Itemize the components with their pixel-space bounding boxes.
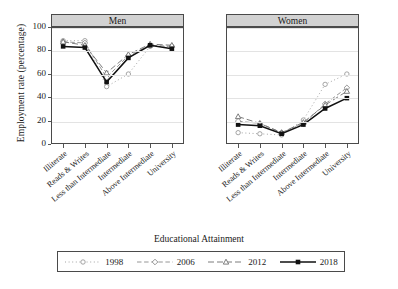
y-tick-label: 60 bbox=[24, 69, 46, 78]
data-point-open-circle bbox=[258, 132, 262, 136]
data-point-open-diamond bbox=[152, 259, 158, 265]
y-tick-label: 20 bbox=[24, 116, 46, 125]
data-point-filled-square bbox=[61, 44, 66, 49]
data-point-open-circle bbox=[323, 82, 327, 86]
data-point-filled-square bbox=[104, 80, 109, 85]
x-tick-mark bbox=[282, 144, 283, 148]
x-tick-mark bbox=[172, 144, 173, 148]
data-point-filled-square bbox=[148, 43, 153, 48]
data-point-filled-square bbox=[279, 132, 284, 137]
x-tick-mark bbox=[260, 144, 261, 148]
legend-label: 2006 bbox=[177, 257, 195, 267]
gridline bbox=[227, 51, 358, 52]
y-tick-label: 80 bbox=[24, 45, 46, 54]
panel-strip-women: Women bbox=[226, 14, 359, 27]
gridline bbox=[52, 28, 183, 29]
gridline bbox=[227, 122, 358, 123]
gridline bbox=[227, 75, 358, 76]
legend-label: 2012 bbox=[248, 257, 266, 267]
y-tick-label: 100 bbox=[24, 22, 46, 31]
panel-women: Women bbox=[226, 14, 359, 144]
gridline bbox=[52, 51, 183, 52]
gridline bbox=[227, 98, 358, 99]
plot-area-women bbox=[226, 27, 359, 144]
y-tick-mark bbox=[48, 144, 51, 145]
data-point-filled-square bbox=[323, 106, 328, 111]
gridline bbox=[52, 122, 183, 123]
x-tick-mark bbox=[238, 144, 239, 148]
plot-area-men bbox=[51, 27, 184, 144]
data-point-filled-square bbox=[236, 122, 241, 127]
data-point-filled-square bbox=[170, 46, 175, 51]
legend-key-2018 bbox=[279, 256, 317, 268]
panel-strip-label: Women bbox=[278, 16, 307, 26]
data-point-filled-square bbox=[83, 45, 88, 50]
x-axis-title: Educational Attainment bbox=[0, 234, 398, 244]
panel-strip-men: Men bbox=[51, 14, 184, 27]
x-tick-mark bbox=[347, 144, 348, 148]
legend-label: 1998 bbox=[105, 257, 123, 267]
legend-key-2006 bbox=[136, 256, 174, 268]
data-point-filled-square bbox=[258, 123, 263, 128]
plot-lines-men bbox=[52, 28, 183, 143]
plot-lines-women bbox=[227, 28, 358, 143]
legend-key-1998 bbox=[64, 256, 102, 268]
x-tick-mark bbox=[325, 144, 326, 148]
gridline bbox=[52, 98, 183, 99]
legend-label: 2018 bbox=[320, 257, 338, 267]
legend-item-1998[interactable]: 1998 bbox=[64, 256, 123, 268]
data-point-open-circle bbox=[236, 130, 240, 134]
x-tick-mark bbox=[107, 144, 108, 148]
y-tick-label: 40 bbox=[24, 92, 46, 101]
x-tick-mark bbox=[128, 144, 129, 148]
gridline bbox=[227, 28, 358, 29]
x-tick-mark bbox=[85, 144, 86, 148]
legend-key-2012 bbox=[207, 256, 245, 268]
data-point-open-circle bbox=[81, 259, 85, 263]
data-point-filled-square bbox=[295, 259, 300, 264]
series-line-2018 bbox=[238, 98, 347, 134]
data-point-filled-square bbox=[301, 122, 306, 127]
y-tick-label: 0 bbox=[24, 139, 46, 148]
gridline bbox=[52, 75, 183, 76]
x-tick-mark bbox=[303, 144, 304, 148]
panel-strip-label: Men bbox=[109, 16, 126, 26]
data-point-open-triangle bbox=[235, 114, 240, 119]
x-tick-mark bbox=[63, 144, 64, 148]
legend-item-2012[interactable]: 2012 bbox=[207, 256, 266, 268]
legend: 1998200620122018 bbox=[57, 251, 345, 272]
data-point-open-circle bbox=[104, 84, 108, 88]
panel-men: Men bbox=[51, 14, 184, 144]
data-point-filled-square bbox=[126, 56, 131, 61]
x-tick-mark bbox=[150, 144, 151, 148]
legend-item-2006[interactable]: 2006 bbox=[136, 256, 195, 268]
legend-item-2018[interactable]: 2018 bbox=[279, 256, 338, 268]
